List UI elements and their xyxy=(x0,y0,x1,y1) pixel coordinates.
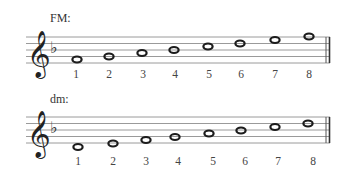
degree-4: 4 xyxy=(175,155,181,167)
flat-icon: ♭ xyxy=(50,118,58,137)
degree-7: 7 xyxy=(275,155,281,167)
staff-dm: 𝄞 ♭ xyxy=(0,0,347,178)
degree-1: 1 xyxy=(75,155,81,167)
degree-2: 2 xyxy=(110,155,116,167)
degree-5: 5 xyxy=(210,155,216,167)
treble-clef-icon: 𝄞 xyxy=(27,110,51,159)
degree-8: 8 xyxy=(310,155,316,167)
degree-6: 6 xyxy=(242,155,248,167)
degree-3: 3 xyxy=(143,155,149,167)
